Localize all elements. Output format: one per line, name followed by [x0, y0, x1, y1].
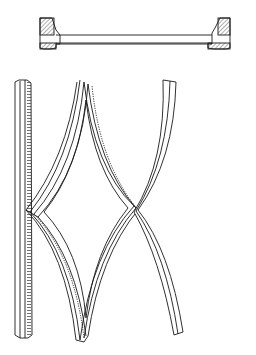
diamond-bars	[26, 80, 138, 342]
straight-stile	[15, 80, 32, 338]
cross-section	[40, 18, 230, 49]
curved-bar	[134, 80, 183, 335]
joinery-drawing	[0, 0, 256, 355]
diagram-canvas	[0, 0, 256, 355]
